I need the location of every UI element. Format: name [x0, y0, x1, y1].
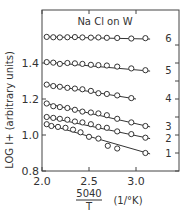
data-point [143, 68, 148, 73]
data-point [88, 88, 93, 93]
data-point [96, 111, 101, 116]
data-point [88, 110, 93, 115]
data-point [57, 84, 62, 89]
data-point [104, 35, 109, 40]
data-point [51, 115, 56, 120]
data-point [86, 134, 91, 139]
data-point [72, 86, 77, 91]
data-point [70, 127, 75, 132]
data-point [143, 123, 148, 128]
data-point [129, 96, 134, 101]
data-point [44, 82, 49, 87]
data-point [80, 61, 85, 66]
x-tick-label: 3.0 [127, 175, 145, 188]
data-point [104, 113, 109, 118]
data-point [96, 91, 101, 96]
data-point [51, 60, 56, 65]
data-point [96, 35, 101, 40]
y-axis-label: LOG I+ (arbitrary units) [4, 51, 15, 169]
x-axis-label-denominator: T [85, 201, 93, 212]
data-point [57, 35, 62, 40]
data-point [44, 34, 49, 39]
data-point [96, 63, 101, 68]
data-point [65, 85, 70, 90]
data-point [80, 109, 85, 114]
data-point [88, 35, 93, 40]
data-point [44, 60, 49, 65]
data-point [57, 116, 62, 121]
data-point [80, 87, 85, 92]
series-label-1: 1 [165, 148, 171, 159]
data-point [143, 135, 148, 140]
y-tick-label: 1.4 [22, 57, 40, 70]
y-tick-label: 1.2 [22, 93, 40, 106]
data-point [115, 64, 120, 69]
data-point [129, 120, 134, 125]
data-point [57, 105, 62, 110]
data-point [51, 35, 56, 40]
series-label-2: 2 [165, 133, 171, 144]
data-point [115, 116, 120, 121]
data-point [65, 35, 70, 40]
data-point [51, 104, 56, 109]
series-label-3: 3 [165, 121, 171, 132]
data-point [63, 125, 68, 130]
series-label-5: 5 [165, 65, 171, 76]
data-point [55, 124, 60, 129]
chart: 2.02.53.00.81.01.21.4Na Cl on WLOG I+ (a… [0, 0, 189, 213]
y-tick-label: 1.0 [22, 129, 40, 142]
data-point [65, 60, 70, 65]
data-point [104, 125, 109, 130]
data-point [115, 35, 120, 40]
series-label-4: 4 [165, 93, 171, 104]
data-point [78, 130, 83, 135]
x-axis-unit: (1/°K) [113, 195, 142, 206]
data-point [143, 36, 148, 41]
data-point [72, 107, 77, 112]
data-point [129, 66, 134, 71]
chart-title: Na Cl on W [77, 16, 132, 27]
data-point [129, 132, 134, 137]
data-point [65, 117, 70, 122]
data-point [51, 83, 56, 88]
data-point [80, 120, 85, 125]
data-point [72, 34, 77, 39]
data-point [72, 119, 77, 124]
data-point [72, 61, 77, 66]
x-tick-label: 2.5 [80, 175, 98, 188]
series-label-6: 6 [165, 33, 171, 44]
data-point [49, 123, 54, 128]
data-point [96, 136, 101, 141]
data-point [88, 122, 93, 127]
data-point [88, 62, 93, 67]
data-point [129, 36, 134, 41]
data-point [65, 105, 70, 110]
data-point [57, 61, 62, 66]
data-point [105, 143, 110, 148]
data-point [115, 93, 120, 98]
data-point [104, 63, 109, 68]
data-point [80, 35, 85, 40]
data-point [104, 91, 109, 96]
y-tick-label: 0.8 [22, 165, 40, 178]
data-point [143, 150, 148, 155]
data-point [44, 101, 49, 106]
data-point [44, 114, 49, 119]
data-point [96, 124, 101, 129]
data-point [115, 129, 120, 134]
x-axis-label-numerator: 5040 [76, 188, 101, 199]
data-point [115, 146, 120, 151]
